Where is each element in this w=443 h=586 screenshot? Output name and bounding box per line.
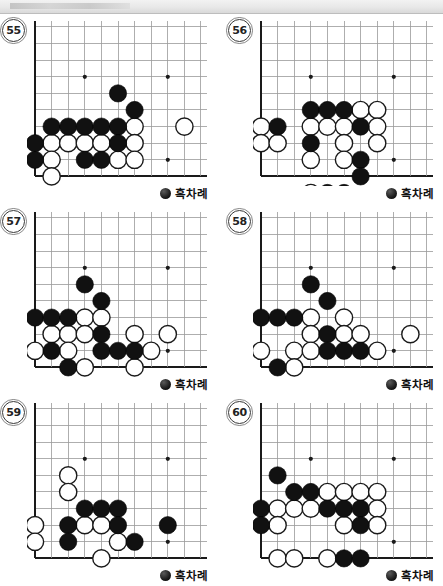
black-stone[interactable]: [253, 517, 270, 534]
black-stone[interactable]: [43, 309, 60, 326]
white-stone[interactable]: [76, 135, 93, 152]
white-stone[interactable]: [302, 500, 319, 517]
white-stone[interactable]: [43, 168, 60, 185]
black-stone[interactable]: [335, 342, 352, 359]
white-stone[interactable]: [60, 135, 77, 152]
black-stone[interactable]: [60, 309, 77, 326]
black-stone[interactable]: [109, 135, 126, 152]
white-stone[interactable]: [302, 326, 319, 343]
black-stone[interactable]: [109, 517, 126, 534]
black-stone[interactable]: [319, 184, 336, 186]
black-stone[interactable]: [352, 168, 369, 185]
black-stone[interactable]: [286, 309, 303, 326]
white-stone[interactable]: [286, 359, 303, 376]
black-stone[interactable]: [93, 342, 110, 359]
white-stone[interactable]: [126, 135, 143, 152]
white-stone[interactable]: [269, 500, 286, 517]
white-stone[interactable]: [352, 326, 369, 343]
white-stone[interactable]: [93, 135, 110, 152]
black-stone[interactable]: [60, 517, 77, 534]
go-board-canvas[interactable]: [27, 210, 212, 370]
black-stone[interactable]: [352, 550, 369, 567]
problem-block[interactable]: 60 흑차례: [226, 395, 438, 585]
black-stone[interactable]: [269, 467, 286, 484]
white-stone[interactable]: [402, 326, 419, 343]
black-stone[interactable]: [93, 151, 110, 168]
black-stone[interactable]: [302, 101, 319, 118]
white-stone[interactable]: [302, 118, 319, 135]
white-stone[interactable]: [76, 309, 93, 326]
black-stone[interactable]: [109, 342, 126, 359]
black-stone[interactable]: [352, 500, 369, 517]
white-stone[interactable]: [302, 151, 319, 168]
black-stone[interactable]: [126, 101, 143, 118]
go-board[interactable]: [253, 210, 438, 370]
white-stone[interactable]: [143, 342, 160, 359]
black-stone[interactable]: [302, 135, 319, 152]
white-stone[interactable]: [109, 151, 126, 168]
black-stone[interactable]: [319, 342, 336, 359]
black-stone[interactable]: [109, 500, 126, 517]
white-stone[interactable]: [369, 101, 386, 118]
problem-block[interactable]: 59 흑차례: [0, 395, 212, 585]
white-stone[interactable]: [93, 517, 110, 534]
black-stone[interactable]: [335, 184, 352, 186]
black-stone[interactable]: [93, 326, 110, 343]
white-stone[interactable]: [27, 533, 44, 550]
white-stone[interactable]: [335, 309, 352, 326]
white-stone[interactable]: [253, 342, 270, 359]
black-stone[interactable]: [253, 500, 270, 517]
black-stone[interactable]: [319, 101, 336, 118]
black-stone[interactable]: [76, 500, 93, 517]
white-stone[interactable]: [369, 135, 386, 152]
white-stone[interactable]: [27, 342, 44, 359]
black-stone[interactable]: [159, 517, 176, 534]
black-stone[interactable]: [93, 292, 110, 309]
black-stone[interactable]: [76, 118, 93, 135]
black-stone[interactable]: [76, 151, 93, 168]
white-stone[interactable]: [302, 342, 319, 359]
black-stone[interactable]: [269, 359, 286, 376]
black-stone[interactable]: [43, 342, 60, 359]
black-stone[interactable]: [27, 151, 44, 168]
go-board-canvas[interactable]: [253, 210, 438, 370]
white-stone[interactable]: [335, 326, 352, 343]
black-stone[interactable]: [126, 533, 143, 550]
white-stone[interactable]: [126, 118, 143, 135]
black-stone[interactable]: [319, 292, 336, 309]
white-stone[interactable]: [176, 118, 193, 135]
white-stone[interactable]: [319, 550, 336, 567]
white-stone[interactable]: [369, 118, 386, 135]
black-stone[interactable]: [335, 500, 352, 517]
black-stone[interactable]: [352, 118, 369, 135]
white-stone[interactable]: [76, 359, 93, 376]
problem-block[interactable]: 56 흑차례: [226, 13, 438, 203]
white-stone[interactable]: [302, 309, 319, 326]
go-board[interactable]: [27, 210, 212, 370]
black-stone[interactable]: [109, 85, 126, 102]
white-stone[interactable]: [269, 550, 286, 567]
white-stone[interactable]: [369, 517, 386, 534]
white-stone[interactable]: [109, 533, 126, 550]
white-stone[interactable]: [126, 326, 143, 343]
black-stone[interactable]: [93, 500, 110, 517]
problem-block[interactable]: 57 흑차례: [0, 204, 212, 394]
black-stone[interactable]: [335, 101, 352, 118]
white-stone[interactable]: [76, 326, 93, 343]
white-stone[interactable]: [286, 342, 303, 359]
white-stone[interactable]: [352, 483, 369, 500]
white-stone[interactable]: [253, 135, 270, 152]
white-stone[interactable]: [286, 550, 303, 567]
white-stone[interactable]: [335, 118, 352, 135]
go-board-canvas[interactable]: [253, 401, 438, 561]
go-board-canvas[interactable]: [27, 19, 212, 179]
black-stone[interactable]: [27, 135, 44, 152]
black-stone[interactable]: [76, 276, 93, 293]
problem-block[interactable]: 58 흑차례: [226, 204, 438, 394]
white-stone[interactable]: [93, 550, 110, 567]
white-stone[interactable]: [43, 326, 60, 343]
go-board[interactable]: [253, 401, 438, 561]
black-stone[interactable]: [27, 309, 44, 326]
black-stone[interactable]: [352, 151, 369, 168]
black-stone[interactable]: [43, 118, 60, 135]
